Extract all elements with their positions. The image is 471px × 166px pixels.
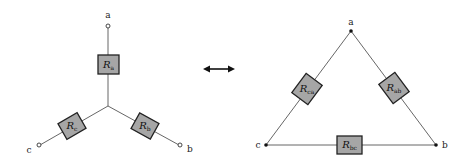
resistor-rb: Rb — [131, 113, 159, 139]
wye-delta-diagram: a c b Ra Rc Rb a — [0, 0, 471, 166]
resistor-rab: Rab — [379, 72, 410, 103]
wye-terminal-c — [37, 143, 41, 147]
resistor-ra: Ra — [98, 55, 119, 74]
delta-node-label-b: b — [442, 140, 448, 150]
wye-node-label-a: a — [105, 10, 111, 20]
delta-node-b — [434, 143, 438, 147]
resistor-rbc: Rbc — [337, 136, 362, 154]
wye-node-label-c: c — [26, 145, 31, 155]
wye-terminal-b — [178, 143, 182, 147]
delta-node-label-a: a — [348, 17, 354, 27]
resistor-rc: Rc — [58, 113, 86, 140]
wye-node-label-b: b — [187, 144, 193, 154]
wye-terminal-a — [106, 24, 110, 28]
delta-node-label-c: c — [255, 140, 260, 150]
delta-network: a c b Rca Rab Rbc — [255, 17, 448, 154]
delta-node-a — [349, 29, 353, 33]
delta-node-c — [264, 143, 268, 147]
resistor-rca: Rca — [292, 73, 323, 104]
wye-network: a c b Ra Rc Rb — [26, 10, 193, 155]
double-headed-arrow-icon — [203, 66, 235, 73]
